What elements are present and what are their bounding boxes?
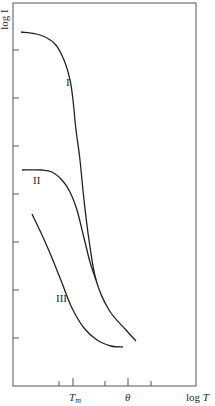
plot-frame bbox=[13, 3, 196, 386]
frame-rect bbox=[13, 3, 196, 386]
y-axis-ticks bbox=[13, 50, 19, 338]
curve-label-I: I bbox=[66, 77, 70, 88]
x-axis-label-log: log bbox=[186, 391, 200, 403]
curve-I bbox=[21, 32, 136, 341]
curve-label-II: II bbox=[33, 175, 40, 186]
curve-label-II-text: II bbox=[33, 174, 40, 186]
tm-subscript: m bbox=[75, 396, 81, 405]
curve-label-I-text: I bbox=[66, 76, 70, 88]
theta-text: θ bbox=[125, 391, 130, 403]
x-tick-label-theta: θ bbox=[125, 392, 130, 403]
x-axis-ticks bbox=[59, 378, 151, 386]
curve-II bbox=[22, 170, 96, 280]
x-tick-label-tm: Tm bbox=[69, 392, 81, 405]
curve-label-III: III bbox=[56, 293, 67, 304]
curve-label-III-text: III bbox=[56, 292, 67, 304]
x-axis-label: log T bbox=[186, 392, 209, 403]
y-axis-label: log I bbox=[0, 9, 10, 29]
curve-III bbox=[32, 214, 123, 347]
chart-canvas bbox=[0, 0, 215, 406]
x-axis-label-var: T bbox=[203, 391, 209, 403]
curves bbox=[21, 32, 136, 347]
y-axis-label-text: log I bbox=[0, 9, 10, 29]
